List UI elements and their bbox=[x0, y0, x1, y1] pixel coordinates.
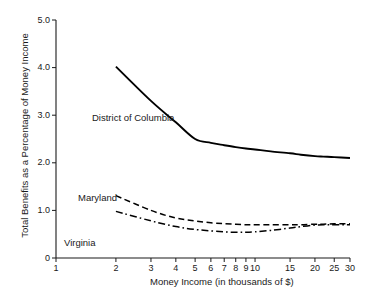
x-axis-tick-label: 2 bbox=[104, 264, 128, 273]
series-label-district-of-columbia: District of Columbia bbox=[92, 113, 174, 123]
x-axis-ticks bbox=[56, 258, 350, 262]
x-axis-tick-label: 30 bbox=[338, 264, 362, 273]
x-axis-tick-label: 3 bbox=[139, 264, 163, 273]
y-axis-tick-label: 0 bbox=[14, 254, 50, 263]
series-label-virginia: Virginia bbox=[64, 238, 96, 248]
series-line-virginia bbox=[116, 211, 350, 232]
series-line-maryland bbox=[116, 196, 350, 225]
series-lines bbox=[116, 67, 350, 233]
y-axis-ticks bbox=[52, 20, 56, 258]
plot-area bbox=[0, 0, 371, 306]
axis-lines bbox=[56, 20, 350, 258]
y-axis-title: Total Benefits as a Percentage of Money … bbox=[19, 20, 30, 252]
x-axis-tick-label: 10 bbox=[243, 264, 267, 273]
series-label-maryland: Maryland bbox=[78, 193, 117, 203]
x-axis-tick-label: 1 bbox=[44, 264, 68, 273]
chart-figure: 01.02.03.04.05.0 1234567891015202530 Dis… bbox=[0, 0, 371, 306]
x-axis-title: Money Income (in thousands of $) bbox=[150, 276, 294, 287]
x-axis-tick-label: 15 bbox=[278, 264, 302, 273]
